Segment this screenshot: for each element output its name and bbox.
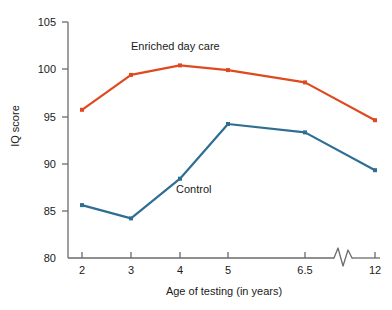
x-tick-label-3: 3	[111, 264, 151, 276]
y-tick-label-90: 90	[28, 158, 56, 170]
x-tick-label-2: 2	[62, 264, 102, 276]
y-tick-label-80: 80	[28, 252, 56, 264]
y-tick-label-100: 100	[28, 63, 56, 75]
x-tick-label-4: 4	[160, 264, 200, 276]
y-tick-label-95: 95	[28, 111, 56, 123]
series-control	[80, 122, 377, 220]
iq-score-line-chart: 105 100 95 90 85 80 2 3 4 5 6.5 12 IQ sc…	[0, 0, 392, 310]
x-axis-ticks	[82, 252, 375, 258]
series-label-enriched-day-care: Enriched day care	[131, 40, 220, 52]
series-label-control: Control	[176, 183, 211, 195]
y-axis-title: IQ score	[9, 91, 21, 161]
axis-lines	[68, 22, 380, 258]
x-tick-label-6.5: 6.5	[285, 264, 325, 276]
y-tick-label-105: 105	[28, 16, 56, 28]
y-tick-label-85: 85	[28, 205, 56, 217]
series-enriched-day-care	[80, 63, 377, 122]
x-axis-title: Age of testing (in years)	[68, 285, 380, 297]
x-tick-label-12: 12	[355, 264, 392, 276]
axis-break-zigzag	[334, 248, 352, 266]
y-axis-ticks	[62, 22, 68, 211]
x-tick-label-5: 5	[208, 264, 248, 276]
